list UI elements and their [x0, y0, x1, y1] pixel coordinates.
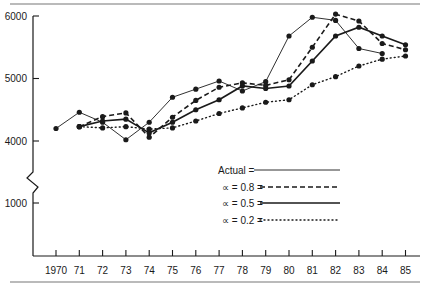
- y-tick-label: 5000: [5, 73, 28, 84]
- data-point: [380, 41, 385, 46]
- data-point: [170, 125, 175, 130]
- data-point: [240, 105, 245, 110]
- series-line: [79, 27, 405, 133]
- x-tick-label: 78: [237, 265, 249, 276]
- data-point: [380, 33, 385, 38]
- x-tick-label: 85: [400, 265, 412, 276]
- x-tick-label: 81: [307, 265, 319, 276]
- x-tick-label: 79: [260, 265, 272, 276]
- data-point: [123, 137, 128, 142]
- legend-label: ∝ = 0.8 =: [222, 182, 263, 193]
- x-tick-label: 77: [214, 265, 226, 276]
- data-point: [380, 57, 385, 62]
- data-point: [147, 120, 152, 125]
- data-point: [403, 47, 408, 52]
- data-point: [240, 88, 245, 93]
- data-point: [310, 15, 315, 20]
- x-tick-label: 76: [190, 265, 202, 276]
- y-tick-label: 6000: [5, 11, 28, 22]
- data-point: [123, 110, 128, 115]
- data-point: [217, 97, 222, 102]
- data-point: [123, 124, 128, 129]
- data-point: [356, 18, 361, 23]
- legend-label: ∝ = 0.2 =: [222, 215, 263, 226]
- data-point: [77, 124, 82, 129]
- data-point: [77, 110, 82, 115]
- y-axis-with-break: [27, 16, 38, 256]
- data-point: [333, 18, 338, 23]
- data-point: [263, 100, 268, 105]
- data-point: [356, 25, 361, 30]
- data-point: [170, 120, 175, 125]
- data-point: [356, 46, 361, 51]
- exponential-smoothing-chart: 1000400050006000197071727374757677787980…: [0, 0, 425, 287]
- data-point: [100, 125, 105, 130]
- data-point: [263, 86, 268, 91]
- data-point: [380, 51, 385, 56]
- data-point: [193, 98, 198, 103]
- x-tick-label: 84: [377, 265, 389, 276]
- series--0-5: [77, 25, 408, 136]
- legend-label: Actual =: [218, 165, 255, 176]
- data-point: [240, 83, 245, 88]
- data-point: [170, 115, 175, 120]
- data-point: [310, 45, 315, 50]
- data-point: [310, 58, 315, 63]
- data-point: [100, 118, 105, 123]
- data-point: [333, 33, 338, 38]
- x-tick-label: 75: [167, 265, 179, 276]
- x-tick-label: 71: [74, 265, 86, 276]
- data-point: [356, 63, 361, 68]
- data-point: [403, 42, 408, 47]
- series-layer: [53, 12, 408, 143]
- data-point: [217, 111, 222, 116]
- data-point: [170, 95, 175, 100]
- data-point: [286, 97, 291, 102]
- x-tick-label: 74: [144, 265, 156, 276]
- y-tick-label: 1000: [5, 198, 28, 209]
- data-point: [310, 82, 315, 87]
- x-tick-label: 83: [353, 265, 365, 276]
- data-point: [333, 74, 338, 79]
- x-tick-label: 1970: [45, 265, 68, 276]
- x-tick-label: 80: [283, 265, 295, 276]
- data-point: [333, 12, 338, 17]
- data-point: [403, 53, 408, 58]
- data-point: [286, 77, 291, 82]
- data-point: [286, 33, 291, 38]
- x-tick-label: 73: [120, 265, 132, 276]
- x-tick-label: 82: [330, 265, 342, 276]
- data-point: [193, 118, 198, 123]
- y-tick-label: 4000: [5, 136, 28, 147]
- data-point: [53, 126, 58, 131]
- legend-label: ∝ = 0.5 =: [222, 198, 263, 209]
- data-point: [193, 107, 198, 112]
- data-point: [193, 87, 198, 92]
- data-point: [217, 85, 222, 90]
- data-point: [147, 127, 152, 132]
- page-rules: [10, 4, 420, 282]
- data-point: [286, 83, 291, 88]
- data-point: [123, 117, 128, 122]
- legend: Actual =∝ = 0.8 =∝ = 0.5 =∝ = 0.2 =: [218, 165, 340, 226]
- data-point: [217, 78, 222, 83]
- x-tick-label: 72: [97, 265, 109, 276]
